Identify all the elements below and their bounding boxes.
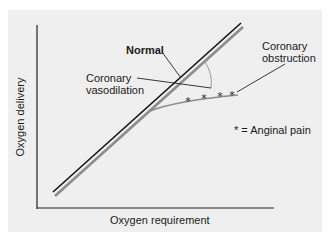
obstruction-label-line2: obstruction <box>262 52 316 64</box>
y-axis-label: Oxygen delivery <box>14 78 26 157</box>
chart-plot: * * * * <box>0 0 330 244</box>
normal-leader <box>162 52 181 78</box>
asterisk-icon: * <box>229 89 235 102</box>
angina-legend: * = Anginal pain <box>234 124 311 136</box>
obstruction-label-line1: Coronary <box>262 40 307 52</box>
asterisk-icon: * <box>217 90 223 103</box>
rotation-arc <box>205 62 211 88</box>
asterisk-icon: * <box>185 95 191 108</box>
asterisk-icon: * <box>201 92 207 105</box>
x-axis-label: Oxygen requirement <box>110 214 210 226</box>
vasodilation-label-line2: vasodilation <box>86 84 144 96</box>
vasodilation-leader <box>137 78 211 88</box>
obstruction-leader <box>237 64 285 92</box>
vasodilation-label-line1: Coronary <box>86 72 131 84</box>
normal-label: Normal <box>126 44 164 56</box>
